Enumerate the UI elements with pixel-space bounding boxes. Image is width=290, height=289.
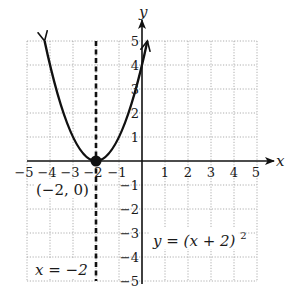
y-tick: −1 <box>120 178 139 193</box>
parabola-equation-exponent: 2 <box>240 230 246 241</box>
y-tick: 5 <box>131 34 139 49</box>
x-tick: −5 <box>14 165 33 180</box>
x-tick: 3 <box>207 165 215 180</box>
y-tick: −4 <box>120 250 139 265</box>
y-axis-label: y <box>138 3 148 21</box>
axis-of-symmetry-label: x = −2 <box>35 261 88 279</box>
x-tick: −3 <box>60 165 79 180</box>
y-tick: 1 <box>131 130 139 145</box>
y-tick: 3 <box>131 82 139 97</box>
parabola-equation-text: y = (x + 2) <box>152 232 236 250</box>
parabola-equation-label: y = (x + 2) 2 <box>152 230 247 250</box>
x-tick: −2 <box>83 165 102 180</box>
x-tick: 1 <box>161 165 169 180</box>
x-axis-label: x <box>276 152 285 170</box>
vertex-label: (−2, 0) <box>36 181 89 199</box>
x-tick: 4 <box>230 165 238 180</box>
x-tick: 2 <box>184 165 192 180</box>
y-tick: 2 <box>131 106 139 121</box>
y-tick: −3 <box>120 226 139 241</box>
y-tick: −2 <box>120 202 139 217</box>
parabola-graph: y x −5 −4 −3 −2 −1 1 2 3 4 5 5 4 3 2 1 −… <box>0 0 290 289</box>
y-tick: −5 <box>120 274 139 289</box>
y-tick: 4 <box>131 58 139 73</box>
x-tick: 5 <box>252 165 260 180</box>
x-tick: −4 <box>37 165 56 180</box>
